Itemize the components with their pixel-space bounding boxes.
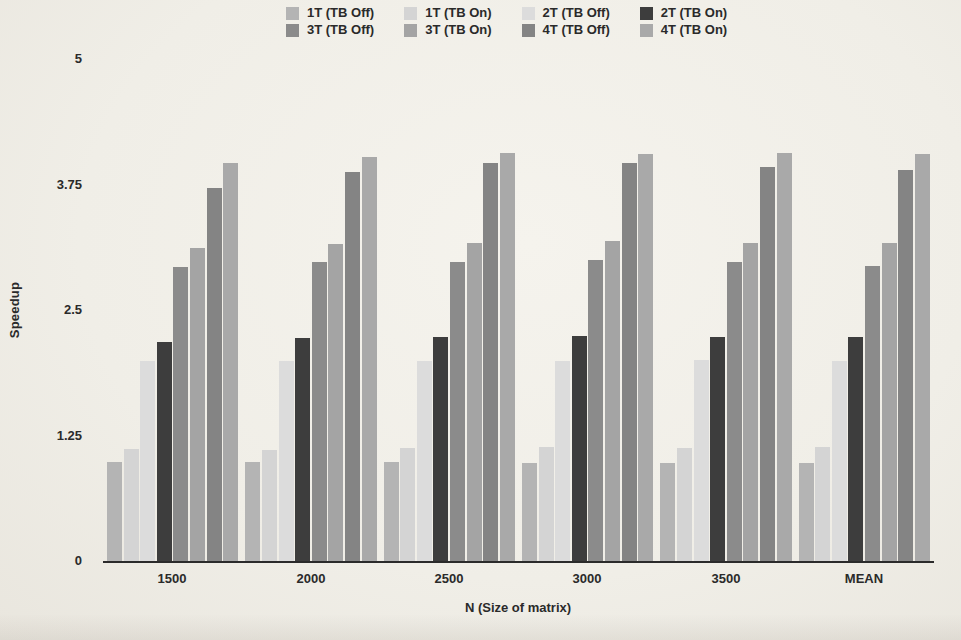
x-tick-label: 3500 [681, 571, 771, 587]
bar-2t-tb-on-3500 [710, 337, 725, 561]
plot-area: 01.252.53.75515002000250030003500MEAN [0, 0, 961, 640]
bar-2t-tb-off-2500 [417, 361, 432, 561]
bar-1t-tb-off-mean [799, 463, 814, 561]
bar-1t-tb-on-2500 [400, 448, 415, 561]
bar-2t-tb-on-3000 [572, 336, 587, 561]
bar-4t-tb-off-3000 [622, 163, 637, 561]
bar-3t-tb-on-3500 [743, 243, 758, 561]
bar-3t-tb-on-2000 [328, 244, 343, 561]
bar-1t-tb-on-mean [815, 447, 830, 561]
y-tick-label: 5 [38, 51, 82, 67]
x-tick-label: 1500 [127, 571, 217, 587]
bar-3t-tb-on-mean [882, 243, 897, 561]
x-axis-label: N (Size of matrix) [413, 600, 623, 615]
bar-2t-tb-off-mean [832, 361, 847, 561]
y-tick-label: 2.5 [38, 302, 82, 318]
bar-2t-tb-on-mean [848, 337, 863, 561]
bar-1t-tb-on-3500 [677, 448, 692, 561]
bar-3t-tb-on-1500 [190, 248, 205, 561]
bar-2t-tb-on-1500 [157, 342, 172, 561]
bar-4t-tb-on-2000 [362, 157, 377, 561]
bar-1t-tb-off-2000 [245, 462, 260, 561]
x-axis-line [103, 561, 934, 563]
bar-1t-tb-off-2500 [384, 462, 399, 561]
bar-3t-tb-on-3000 [605, 241, 620, 561]
bar-1t-tb-off-1500 [107, 462, 122, 561]
bar-1t-tb-off-3500 [660, 463, 675, 561]
bar-4t-tb-off-2500 [483, 163, 498, 561]
bar-3t-tb-off-3000 [588, 260, 603, 561]
bar-3t-tb-on-2500 [467, 243, 482, 561]
bar-3t-tb-off-3500 [727, 262, 742, 561]
bar-3t-tb-off-mean [865, 266, 880, 561]
bar-3t-tb-off-2500 [450, 262, 465, 561]
x-tick-label: 2000 [266, 571, 356, 587]
x-tick-label: 3000 [542, 571, 632, 587]
bar-1t-tb-off-3000 [522, 463, 537, 561]
bar-4t-tb-on-1500 [223, 163, 238, 561]
bar-3t-tb-off-2000 [312, 262, 327, 561]
bar-2t-tb-on-2500 [433, 337, 448, 561]
bar-2t-tb-off-3000 [555, 361, 570, 561]
bar-4t-tb-off-1500 [207, 188, 222, 561]
bar-4t-tb-on-2500 [500, 153, 515, 561]
bar-3t-tb-off-1500 [173, 267, 188, 561]
bar-1t-tb-on-3000 [539, 447, 554, 561]
bar-4t-tb-off-3500 [760, 167, 775, 561]
bar-4t-tb-off-mean [898, 170, 913, 561]
bar-2t-tb-off-1500 [140, 361, 155, 561]
bar-4t-tb-on-3000 [638, 154, 653, 561]
bar-4t-tb-off-2000 [345, 172, 360, 561]
y-tick-label: 3.75 [38, 177, 82, 193]
x-tick-label: 2500 [404, 571, 494, 587]
y-tick-label: 0 [38, 553, 82, 569]
y-tick-label: 1.25 [38, 428, 82, 444]
bar-2t-tb-off-2000 [279, 361, 294, 561]
x-tick-label: MEAN [819, 571, 909, 587]
scanned-bar-chart-page: 1T (TB Off)1T (TB On)2T (TB Off)2T (TB O… [0, 0, 961, 640]
bar-1t-tb-on-2000 [262, 450, 277, 561]
bar-4t-tb-on-mean [915, 154, 930, 561]
bar-4t-tb-on-3500 [777, 153, 792, 561]
bar-2t-tb-on-2000 [295, 338, 310, 561]
bar-2t-tb-off-3500 [694, 360, 709, 561]
bar-1t-tb-on-1500 [124, 449, 139, 561]
